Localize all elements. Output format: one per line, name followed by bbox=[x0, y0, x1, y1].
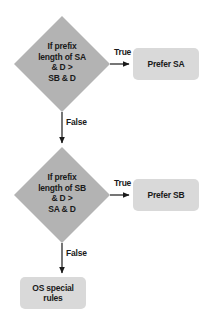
flowchart-canvas: If prefix length of SA & D > SB & D Pref… bbox=[0, 0, 210, 320]
decision-prefix-sb-shape bbox=[14, 147, 110, 243]
flowchart-graphics bbox=[0, 0, 210, 320]
terminal-prefer-sa-shape bbox=[133, 48, 199, 80]
terminal-prefer-sb-shape bbox=[133, 179, 199, 211]
decision-prefix-sa-shape bbox=[14, 16, 110, 112]
terminal-os-special-rules-shape bbox=[20, 277, 86, 309]
